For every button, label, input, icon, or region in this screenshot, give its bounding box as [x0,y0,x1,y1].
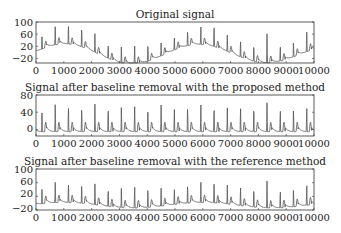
x-tick-label: 5000 [162,138,187,149]
x-tick-label: 4000 [134,138,159,149]
x-tick-label: 7000 [218,138,243,149]
x-tick-label: 9000 [273,212,298,223]
x-tick-labels: 0100020003000400050006000700080009000100… [33,22,330,76]
x-tick-label: 9000 [273,138,298,149]
x-tick-label: 0 [33,212,39,223]
axes-box [36,22,314,63]
x-tick-label: 10000 [298,138,330,149]
panel-title-original: Original signal [136,8,215,20]
y-tick-label: −20 [12,203,33,214]
x-tick-label: 9000 [273,65,298,76]
x-tick-label: 2000 [79,65,104,76]
y-tick-label: 40 [20,107,33,118]
y-tick-label: 60 [20,29,33,40]
y-tick-labels: 100 60 20 −20 [12,164,33,214]
x-tick-label: 0 [33,65,39,76]
x-tick-label: 6000 [190,65,215,76]
x-tick-label: 8000 [246,138,271,149]
x-tick-label: 7000 [218,65,243,76]
y-tick-label: 80 [20,90,33,101]
x-tick-label: 7000 [218,212,243,223]
y-tick-label: 0 [27,123,33,134]
x-tick-labels: 0100020003000400050006000700080009000100… [33,95,330,149]
signal-line-original [36,27,314,64]
x-tick-label: 5000 [162,212,187,223]
x-tick-label: 1000 [51,65,76,76]
y-tick-labels: 80 40 0 [20,90,33,134]
x-tick-label: 3000 [107,65,132,76]
x-tick-label: 8000 [246,212,271,223]
x-tick-label: 5000 [162,65,187,76]
y-tick-label: 100 [14,164,33,175]
x-tick-label: 10000 [298,65,330,76]
x-tick-label: 6000 [190,138,215,149]
panel-title-proposed: Signal after baseline removal with the p… [25,81,325,93]
x-tick-label: 6000 [190,212,215,223]
signal-line-reference [36,181,314,208]
x-tick-label: 4000 [134,65,159,76]
y-tick-label: 20 [20,188,33,199]
y-tick-label: 60 [20,176,33,187]
y-tick-label: 20 [20,41,33,52]
y-tick-label: 100 [14,17,33,28]
y-tick-labels: 100 60 20 −20 [12,17,33,64]
signal-line-proposed [36,103,314,132]
x-tick-labels: 0100020003000400050006000700080009000100… [33,169,330,223]
panel-original: Original signal 100 60 20 −20 0100020003… [12,8,330,76]
panel-proposed: Signal after baseline removal with the p… [20,81,330,149]
x-tick-label: 2000 [79,138,104,149]
x-tick-label: 2000 [79,212,104,223]
figure: Original signal 100 60 20 −20 0100020003… [0,0,341,233]
x-tick-label: 4000 [134,212,159,223]
x-tick-label: 10000 [298,212,330,223]
x-tick-label: 1000 [51,138,76,149]
x-tick-label: 0 [33,138,39,149]
panel-reference: Signal after baseline removal with the r… [12,155,330,223]
panel-title-reference: Signal after baseline removal with the r… [24,155,326,167]
x-tick-label: 3000 [107,212,132,223]
x-tick-label: 1000 [51,212,76,223]
y-tick-label: −20 [12,53,33,64]
x-tick-label: 3000 [107,138,132,149]
x-tick-label: 8000 [246,65,271,76]
